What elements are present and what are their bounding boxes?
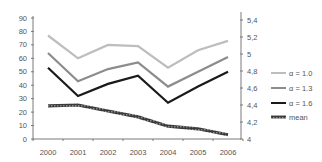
left-tick-label: 0 xyxy=(23,135,27,144)
x-axis: 2000200120022003200420052006 xyxy=(33,139,243,157)
series-line-3 xyxy=(48,105,228,135)
left-tick-label: 10 xyxy=(19,121,27,130)
left-tick-label: 40 xyxy=(19,81,27,90)
series-line-2 xyxy=(48,68,228,103)
legend-label: α = 1.0 xyxy=(289,69,312,78)
left-tick-label: 20 xyxy=(19,108,27,117)
right-tick-label: 4,2 xyxy=(247,118,257,127)
legend: α = 1.0α = 1.3α = 1.6mean xyxy=(271,69,312,122)
left-tick-label: 80 xyxy=(19,27,27,36)
left-tick-label: 70 xyxy=(19,40,27,49)
right-tick-label: 4,8 xyxy=(247,67,257,76)
x-tick-label: 2000 xyxy=(40,148,57,157)
right-tick-label: 4,6 xyxy=(247,84,257,93)
right-tick-label: 5,4 xyxy=(247,16,257,25)
legend-label: α = 1.3 xyxy=(289,84,312,93)
right-tick-label: 4,4 xyxy=(247,101,257,110)
x-tick-label: 2002 xyxy=(100,148,117,157)
right-tick-label: 4 xyxy=(247,135,251,144)
right-y-axis: 44,24,44,64,855,25,4 xyxy=(240,12,257,144)
left-tick-label: 60 xyxy=(19,54,27,63)
series-layer xyxy=(48,36,228,135)
left-tick-label: 30 xyxy=(19,94,27,103)
legend-label: mean xyxy=(289,113,308,122)
x-tick-label: 2004 xyxy=(160,148,177,157)
left-y-axis: 0102030405060708090 xyxy=(19,14,34,144)
x-tick-label: 2005 xyxy=(190,148,207,157)
x-tick-label: 2003 xyxy=(130,148,147,157)
series-line-1 xyxy=(48,53,228,87)
left-tick-label: 50 xyxy=(19,67,27,76)
x-tick-label: 2006 xyxy=(220,148,237,157)
left-tick-label: 90 xyxy=(19,14,27,23)
right-tick-label: 5,2 xyxy=(247,33,257,42)
right-tick-label: 5 xyxy=(247,50,251,59)
line-chart: 0102030405060708090 44,24,44,64,855,25,4… xyxy=(0,0,322,162)
x-tick-label: 2001 xyxy=(70,148,87,157)
legend-label: α = 1.6 xyxy=(289,99,312,108)
